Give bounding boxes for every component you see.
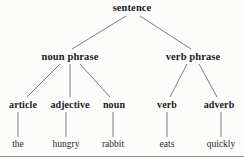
bottom-divider-rule <box>0 156 244 157</box>
leaf-rabbit: rabbit <box>102 140 124 150</box>
node-adjective: adjective <box>50 100 89 110</box>
edge-sentence-to-verb-phrase <box>140 16 191 49</box>
leaf-hungry: hungry <box>53 140 80 150</box>
node-verb: verb <box>157 100 177 110</box>
node-noun-phrase: noun phrase <box>42 52 99 63</box>
parse-tree-diagram: sentence noun phrase verb phrase article… <box>0 0 244 159</box>
edge-noun-phrase-to-noun <box>80 64 110 97</box>
edge-noun-phrase-to-article <box>27 64 60 97</box>
tree-edges-layer <box>0 0 244 159</box>
edge-verb-phrase-to-verb <box>170 64 187 97</box>
node-article: article <box>9 100 37 110</box>
edge-sentence-to-noun-phrase <box>72 16 126 49</box>
node-noun: noun <box>103 100 125 110</box>
node-sentence: sentence <box>113 3 152 14</box>
leaf-quickly: quickly <box>207 140 236 150</box>
edge-verb-phrase-to-adverb <box>199 64 217 97</box>
leaf-the: the <box>12 140 24 150</box>
node-adverb: adverb <box>204 100 235 110</box>
leaf-eats: eats <box>160 140 175 150</box>
node-verb-phrase: verb phrase <box>166 52 220 63</box>
